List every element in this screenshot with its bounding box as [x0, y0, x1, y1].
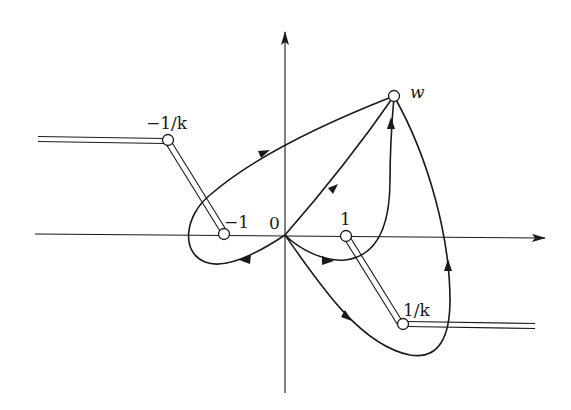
point-w [389, 91, 400, 102]
label-one: 1 [340, 209, 351, 229]
point-minus-one-over-k [163, 135, 174, 146]
diagram-canvas: −1/k −1 0 1 1/k w [0, 0, 571, 410]
point-one-over-k [398, 319, 409, 330]
arrow-icon [239, 255, 251, 264]
branch-cut-left [38, 137, 225, 232]
arrow-icon [444, 259, 452, 271]
label-origin: 0 [269, 213, 280, 233]
label-minus-one-over-k: −1/k [146, 113, 188, 133]
real-axis [35, 234, 545, 238]
arrow-icon [387, 117, 395, 129]
label-minus-one: −1 [224, 212, 249, 232]
point-one [341, 231, 352, 242]
path-around-minus-one [189, 96, 394, 264]
label-w: w [410, 82, 425, 102]
label-one-over-k: 1/k [403, 300, 431, 320]
arrow-icon [328, 184, 338, 194]
branch-cut-right [345, 237, 535, 329]
arrow-icon [322, 256, 334, 265]
